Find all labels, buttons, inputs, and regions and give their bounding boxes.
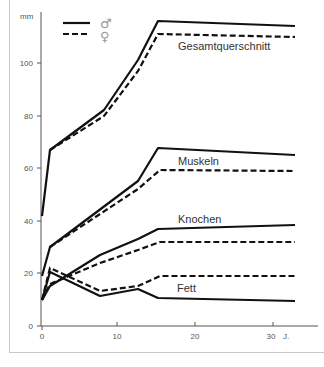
- x-tick-label: 30: [267, 332, 276, 341]
- series-fett: Fett: [42, 268, 295, 301]
- y-tick-label: 100: [20, 59, 34, 68]
- x-tick-label: 10: [113, 332, 122, 341]
- y-tick-label: 20: [24, 269, 33, 278]
- x-tick-label: 20: [191, 332, 200, 341]
- label-knochen: Knochen: [178, 213, 221, 225]
- y-tick-label: 60: [24, 164, 33, 173]
- legend: ♂ ♀: [63, 16, 112, 44]
- knochen-female-line: [42, 242, 295, 300]
- fett-female-line: [42, 268, 295, 300]
- female-symbol-icon: ♀: [100, 29, 110, 44]
- y-tick-label: 0: [29, 322, 34, 331]
- label-fett: Fett: [177, 282, 196, 294]
- series-muskeln: Muskeln: [42, 148, 295, 276]
- y-axis-unit: mm: [20, 12, 34, 21]
- y-ticks: [37, 63, 41, 326]
- x-axis-unit: J.: [283, 332, 289, 341]
- knochen-male-line: [42, 225, 295, 300]
- muskeln-female-line: [50, 170, 295, 247]
- series-gesamtquerschnitt: Gesamtquerschnitt: [42, 21, 295, 216]
- muskeln-male-line: [42, 148, 295, 276]
- label-gesamtquerschnitt: Gesamtquerschnitt: [178, 40, 270, 52]
- chart: 0 20 40 60 80 100 mm 0 10 20 30 J. ♂ ♀ G…: [0, 0, 324, 367]
- x-tick-label: 0: [40, 332, 45, 341]
- x-tick-labels: 0 10 20 30 J.: [40, 332, 289, 341]
- label-muskeln: Muskeln: [178, 155, 219, 167]
- y-tick-label: 40: [24, 217, 33, 226]
- y-tick-labels: 0 20 40 60 80 100 mm: [20, 12, 34, 331]
- y-tick-label: 80: [24, 112, 33, 121]
